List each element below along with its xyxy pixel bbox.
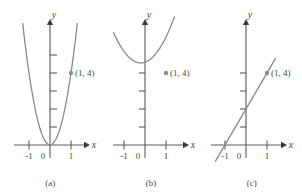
- x-tick-label-1: 1: [69, 151, 74, 161]
- point-label-1-4: (1, 4): [170, 68, 190, 78]
- panel-a: y x -1 0 1 (1, 4) (a): [0, 0, 101, 192]
- point-1-4-marker: [69, 71, 73, 75]
- x-tick-label-1: 1: [265, 151, 270, 161]
- x-tick-label-neg1: -1: [25, 151, 33, 161]
- y-axis-label: y: [145, 9, 151, 20]
- point-1-4-marker: [265, 71, 269, 75]
- graph-a-svg: y x -1 0 1 (1, 4): [0, 0, 101, 192]
- x-tick-label-0: 0: [237, 151, 242, 161]
- figure-three-graphs: y x -1 0 1 (1, 4) (a) y x -1 0: [0, 0, 302, 192]
- x-axis-arrow: [84, 142, 90, 148]
- x-axis-arrow: [281, 142, 287, 148]
- panel-caption-b: (b): [101, 178, 202, 188]
- x-tick-label-neg1: -1: [120, 151, 128, 161]
- x-tick-label-1: 1: [163, 151, 168, 161]
- x-axis-label: x: [91, 139, 97, 150]
- x-tick-label-0: 0: [41, 151, 46, 161]
- y-axis-label: y: [51, 9, 57, 20]
- x-tick-label-neg1: -1: [222, 151, 230, 161]
- x-axis-arrow: [183, 142, 189, 148]
- y-axis-label: y: [247, 9, 253, 20]
- panel-c: y x -1 0 1 (1, 4) (c): [201, 0, 302, 192]
- graph-c-svg: y x -1 0 1 (1, 4): [201, 0, 302, 192]
- point-label-1-4: (1, 4): [75, 68, 95, 78]
- panel-caption-a: (a): [0, 178, 101, 188]
- x-tick-label-0: 0: [135, 151, 140, 161]
- point-1-4-marker: [163, 71, 167, 75]
- panel-b: y x -1 0 1 (1, 4) (b): [101, 0, 202, 192]
- panel-caption-c: (c): [201, 178, 302, 188]
- graph-b-svg: y x -1 0 1 (1, 4): [101, 0, 202, 192]
- x-axis-label: x: [288, 139, 294, 150]
- x-axis-label: x: [189, 139, 195, 150]
- point-label-1-4: (1, 4): [271, 68, 291, 78]
